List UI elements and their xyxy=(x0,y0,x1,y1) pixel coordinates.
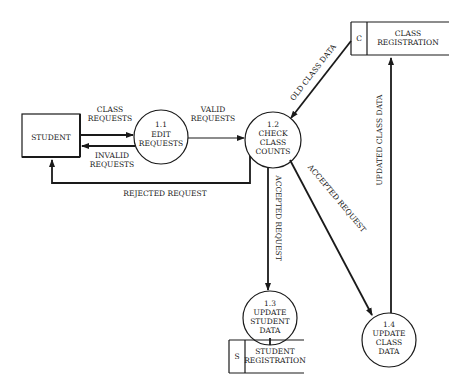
flow-valid-requests: VALID REQUESTS xyxy=(188,105,244,138)
svg-text:S: S xyxy=(234,352,239,361)
svg-text:REJECTED REQUEST: REJECTED REQUEST xyxy=(123,189,206,198)
svg-text:REQUESTS: REQUESTS xyxy=(90,160,134,169)
svg-text:VALID: VALID xyxy=(200,105,225,114)
data-flow-diagram: STUDENT 1.1 EDIT REQUESTS 1.2 CHECK CLAS… xyxy=(0,0,449,390)
svg-text:ACCEPTED REQUEST: ACCEPTED REQUEST xyxy=(305,162,367,234)
svg-text:DATA: DATA xyxy=(378,347,400,356)
svg-text:CLASS: CLASS xyxy=(395,29,421,38)
flow-invalid-requests: INVALID REQUESTS xyxy=(82,146,135,169)
svg-text:REQUESTS: REQUESTS xyxy=(139,139,183,148)
svg-text:STUDENT: STUDENT xyxy=(255,347,295,356)
student-entity: STUDENT xyxy=(22,114,80,157)
svg-text:STUDENT: STUDENT xyxy=(250,317,290,326)
svg-text:INVALID: INVALID xyxy=(95,151,129,160)
svg-text:C: C xyxy=(356,34,362,43)
flow-old-class-data: OLD CLASS DATA xyxy=(288,41,351,118)
svg-text:UPDATED CLASS DATA: UPDATED CLASS DATA xyxy=(375,94,384,186)
svg-text:REQUESTS: REQUESTS xyxy=(191,114,235,123)
flow-accepted-request-1-3: ACCEPTED REQUEST xyxy=(268,168,283,290)
svg-text:1.3: 1.3 xyxy=(264,299,276,308)
process-1-4: 1.4 UPDATE CLASS DATA xyxy=(362,313,416,367)
svg-text:ACCEPTED REQUEST: ACCEPTED REQUEST xyxy=(274,174,283,261)
svg-text:CLASS: CLASS xyxy=(376,338,402,347)
svg-text:REQUESTS: REQUESTS xyxy=(88,114,132,123)
svg-text:REGISTRATION: REGISTRATION xyxy=(244,356,306,365)
flow-class-requests: CLASS REQUESTS xyxy=(80,105,133,135)
svg-text:1.4: 1.4 xyxy=(383,320,395,329)
student-label: STUDENT xyxy=(31,133,71,142)
svg-text:CLASS: CLASS xyxy=(97,105,123,114)
svg-text:DATA: DATA xyxy=(259,326,281,335)
svg-text:REGISTRATION: REGISTRATION xyxy=(377,38,439,47)
svg-text:CHECK: CHECK xyxy=(258,129,287,138)
svg-text:EDIT: EDIT xyxy=(151,130,170,139)
svg-text:1.2: 1.2 xyxy=(267,120,279,129)
process-1-1: 1.1 EDIT REQUESTS xyxy=(134,110,188,164)
process-1-2: 1.2 CHECK CLASS COUNTS xyxy=(245,112,301,168)
flow-updated-class-data: UPDATED CLASS DATA xyxy=(375,58,391,313)
data-store-class-registration: C CLASS REGISTRATION xyxy=(351,22,449,55)
svg-text:OLD CLASS DATA: OLD CLASS DATA xyxy=(288,42,338,103)
svg-text:COUNTS: COUNTS xyxy=(256,147,291,156)
flow-accepted-request-1-4: ACCEPTED REQUEST xyxy=(290,160,372,315)
svg-text:UPDATE: UPDATE xyxy=(254,308,287,317)
process-1-3: 1.3 UPDATE STUDENT DATA xyxy=(243,291,297,345)
svg-text:CLASS: CLASS xyxy=(260,138,286,147)
svg-text:UPDATE: UPDATE xyxy=(373,329,406,338)
process-1-1-number: 1.1 xyxy=(155,120,167,129)
